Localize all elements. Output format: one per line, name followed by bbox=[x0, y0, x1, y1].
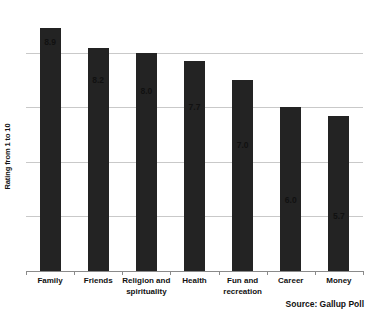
x-tick-mark bbox=[26, 271, 27, 275]
y-axis-title: Rating from 1 to 10 bbox=[0, 108, 14, 204]
x-axis-category-label: Religion and spirituality bbox=[122, 276, 170, 297]
bar-value-label: 6.0 bbox=[271, 195, 311, 205]
bar-value-label: 8.0 bbox=[126, 86, 166, 96]
bar[interactable]: 5.7 bbox=[328, 116, 349, 271]
bar[interactable]: 8.9 bbox=[40, 28, 61, 271]
bar[interactable]: 8.0 bbox=[136, 53, 157, 271]
bar-rect[interactable] bbox=[280, 107, 301, 271]
x-axis-category-label: Health bbox=[170, 276, 218, 287]
x-tick-mark bbox=[170, 271, 171, 275]
x-tick-mark bbox=[267, 271, 268, 275]
bar-rect[interactable] bbox=[328, 116, 349, 271]
x-axis-category-label: Family bbox=[26, 276, 74, 287]
bar-value-label: 5.7 bbox=[319, 211, 359, 221]
x-tick-mark bbox=[122, 271, 123, 275]
bar[interactable]: 6.0 bbox=[280, 107, 301, 271]
x-tick-mark bbox=[219, 271, 220, 275]
plot-area: 02468 8.98.28.07.77.06.05.7 bbox=[26, 8, 363, 271]
bar-rect[interactable] bbox=[40, 28, 61, 271]
bar[interactable]: 7.0 bbox=[232, 80, 253, 271]
bar-value-label: 7.7 bbox=[175, 102, 215, 112]
source-note: Source: Gallup Poll bbox=[286, 299, 364, 309]
bar-chart: Rating from 1 to 10 02468 8.98.28.07.77.… bbox=[0, 0, 368, 313]
x-tick-mark bbox=[363, 271, 364, 275]
x-axis-category-label: Money bbox=[315, 276, 363, 287]
x-axis-category-label: Fun and recreation bbox=[219, 276, 267, 297]
bar[interactable]: 8.2 bbox=[88, 48, 109, 271]
x-tick-mark bbox=[315, 271, 316, 275]
bar-value-label: 8.9 bbox=[30, 37, 70, 47]
x-axis-category-label: Friends bbox=[74, 276, 122, 287]
bar-value-label: 8.2 bbox=[78, 75, 118, 85]
y-axis-title-text: Rating from 1 to 10 bbox=[3, 123, 12, 189]
axis-baseline bbox=[26, 271, 363, 272]
bar[interactable]: 7.7 bbox=[184, 61, 205, 271]
bar-rect[interactable] bbox=[184, 61, 205, 271]
x-axis-category-label: Career bbox=[267, 276, 315, 287]
gridline bbox=[26, 53, 363, 54]
bar-rect[interactable] bbox=[232, 80, 253, 271]
x-tick-mark bbox=[74, 271, 75, 275]
bar-value-label: 7.0 bbox=[223, 140, 263, 150]
